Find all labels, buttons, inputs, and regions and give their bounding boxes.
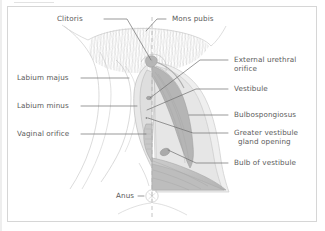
gluteal-fold-left [118, 203, 151, 214]
label-mons-pubis: Mons pubis [172, 14, 214, 23]
label-greater-vestibule-gland-line1: Greater vestibule [234, 128, 298, 137]
label-labium-minus: Labium minus [17, 101, 69, 110]
hairline-tail-right [211, 26, 226, 46]
label-bulb-of-vestibule: Bulb of vestibule [234, 158, 296, 167]
deep-dissection-group [152, 62, 229, 192]
external-urethral-orifice [146, 96, 151, 99]
greater-vestibule-gland-opening [146, 117, 148, 119]
figure-page: Clitoris Mons pubis Labium majus Labium … [0, 0, 325, 231]
perineum-contour [139, 163, 149, 186]
gluteal-fold-right [153, 203, 187, 215]
label-external-urethral-orifice-line2: orifice [234, 64, 257, 73]
label-vaginal-orifice: Vaginal orifice [17, 129, 69, 138]
label-greater-vestibule-gland-line2: gland opening [238, 137, 291, 146]
label-anus: Anus [116, 191, 134, 200]
label-vestibule: Vestibule [234, 84, 268, 93]
label-external-urethral-orifice-line1: External urethral [234, 55, 296, 64]
label-clitoris: Clitoris [57, 14, 83, 23]
label-bulbospongiosus: Bulbospongiosus [234, 110, 296, 119]
label-labium-majus: Labium majus [17, 73, 69, 82]
